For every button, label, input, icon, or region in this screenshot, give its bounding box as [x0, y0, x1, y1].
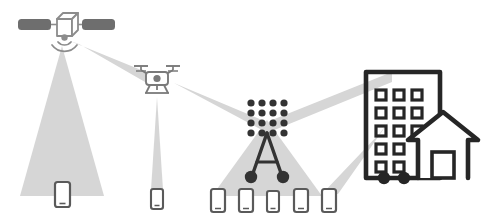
smartphone-icon[interactable] — [211, 189, 225, 212]
building-house-outline — [408, 112, 478, 178]
satellite-icon[interactable] — [18, 13, 115, 51]
drone-camera-icon — [153, 75, 160, 82]
network-diagram-canvas — [0, 0, 489, 223]
smartphone-icon[interactable] — [239, 189, 253, 212]
satellite-signal-wave-inner — [58, 42, 71, 45]
smartphone-icon[interactable] — [294, 189, 308, 212]
building-footing-right — [398, 172, 410, 184]
beam-layer — [20, 41, 392, 196]
drone-leg-right — [164, 85, 168, 93]
satellite-solar-panel-left — [18, 19, 51, 30]
beam-satellite-drone — [70, 41, 152, 86]
smartphone-icon[interactable] — [267, 191, 279, 212]
building-icon[interactable] — [366, 72, 478, 184]
smartphone-icon[interactable] — [322, 189, 336, 212]
satellite-emitter — [61, 34, 67, 40]
smartphone-icon[interactable] — [55, 182, 70, 207]
beam-drone-ground — [151, 97, 163, 190]
cell-tower-footing-left — [245, 171, 257, 183]
satellite-body-front — [57, 19, 72, 36]
building-footing-left — [378, 172, 390, 184]
satellite-signal-wave-outer — [52, 45, 77, 51]
smartphone-icon[interactable] — [151, 189, 163, 209]
beam-building-ground — [322, 120, 390, 194]
beam-tower-building — [272, 72, 392, 131]
building-window-grid — [376, 90, 422, 172]
network-diagram — [0, 0, 489, 223]
drone-leg-left — [146, 85, 150, 93]
beam-satellite-ground — [20, 46, 104, 196]
satellite-solar-panel-right — [82, 19, 115, 30]
cell-tower-footing-right — [277, 171, 289, 183]
